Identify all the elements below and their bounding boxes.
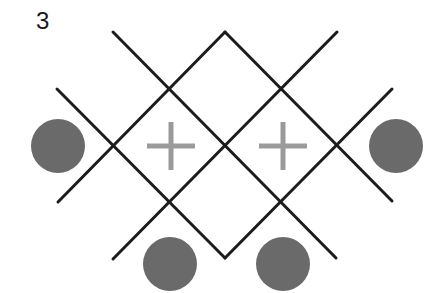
circle-bottom-right <box>256 237 310 291</box>
lattice-lines-group <box>57 32 392 259</box>
circle-right <box>369 119 423 173</box>
line-e <box>225 32 392 201</box>
diamond-lattice-diagram <box>0 0 447 293</box>
circle-left <box>31 119 85 173</box>
circle-bottom-left <box>143 237 197 291</box>
plus-right <box>259 122 307 170</box>
plus-left <box>147 122 195 170</box>
line-f <box>225 89 392 258</box>
